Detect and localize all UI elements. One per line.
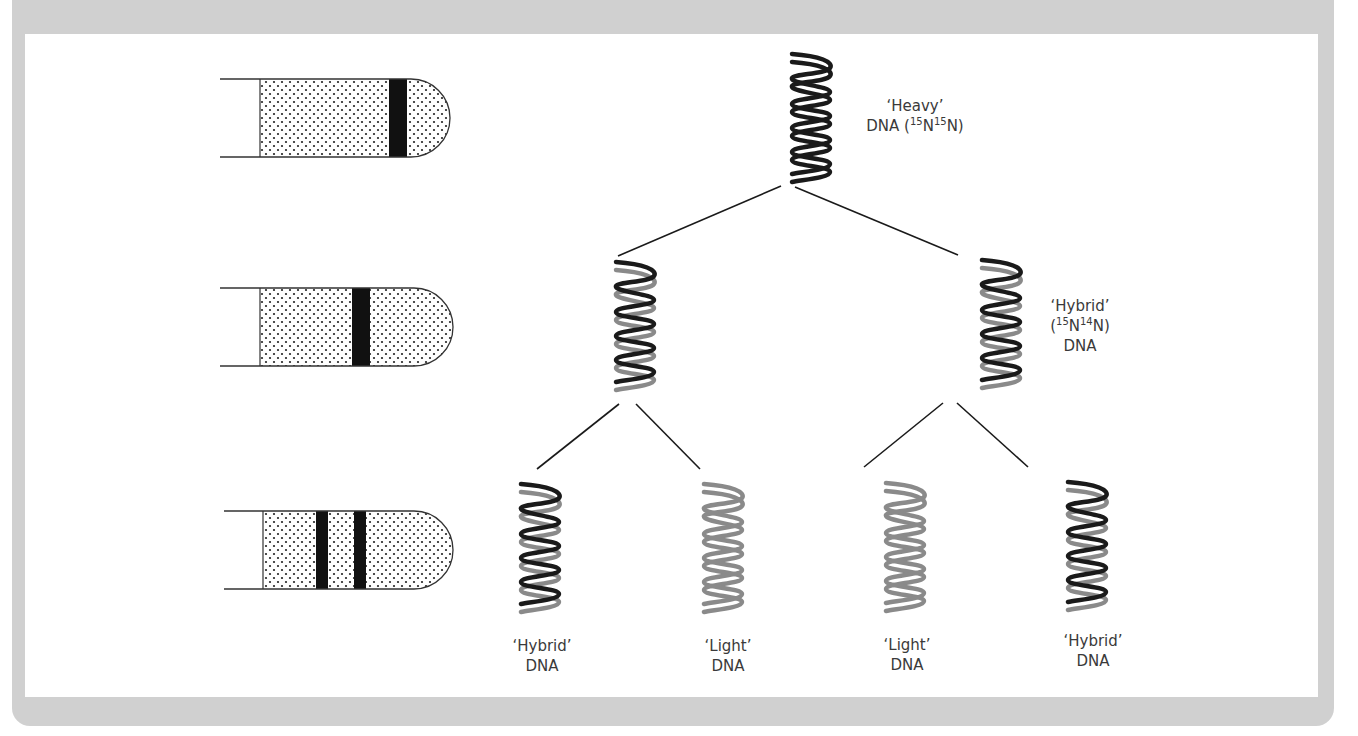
- dna-band-heavy: [389, 79, 407, 157]
- dna-helix-light-gen2-c: [886, 483, 925, 611]
- label-bottom-light-c: ‘Light’ DNA: [862, 635, 952, 675]
- dna-helix-hybrid-gen1-right: [982, 260, 1021, 388]
- lineage-lines: [537, 186, 1028, 469]
- dna-band-hybrid: [352, 288, 370, 366]
- label-line1: ‘Hybrid’: [1048, 631, 1138, 651]
- label-line1: ‘Light’: [683, 636, 773, 656]
- label-hybrid-line1: ‘Hybrid’: [1040, 296, 1120, 316]
- centrifuge-tube-gen2: [224, 511, 453, 589]
- dna-band-light: [316, 511, 328, 589]
- label-line1: ‘Hybrid’: [497, 636, 587, 656]
- centrifuge-tube-gen0: [220, 79, 450, 157]
- label-hybrid-line3: DNA: [1040, 336, 1120, 356]
- dna-helix-hybrid-gen2-a: [521, 484, 560, 612]
- label-line2: DNA: [497, 656, 587, 676]
- label-bottom-light-b: ‘Light’ DNA: [683, 636, 773, 676]
- label-hybrid-dna-gen1: ‘Hybrid’ (15N14N) DNA: [1040, 296, 1120, 356]
- label-bottom-hybrid-a: ‘Hybrid’ DNA: [497, 636, 587, 676]
- dna-helix-heavy: [792, 54, 831, 182]
- dna-helix-light-gen2-b: [704, 484, 743, 612]
- dna-helix-hybrid-gen2-d: [1068, 482, 1107, 610]
- label-heavy-dna: ‘Heavy’ DNA (15N15N): [860, 96, 970, 136]
- label-heavy-line1: ‘Heavy’: [860, 96, 970, 116]
- label-line2: DNA: [683, 656, 773, 676]
- label-hybrid-line2: (15N14N): [1040, 316, 1120, 336]
- label-bottom-hybrid-d: ‘Hybrid’ DNA: [1048, 631, 1138, 671]
- dna-helix-hybrid-gen1-left: [616, 262, 655, 390]
- label-heavy-line2: DNA (15N15N): [860, 116, 970, 136]
- dna-band-hybrid: [354, 511, 366, 589]
- label-line1: ‘Light’: [862, 635, 952, 655]
- label-line2: DNA: [1048, 651, 1138, 671]
- replication-diagram: [0, 0, 1358, 736]
- centrifuge-tube-gen1: [220, 288, 453, 366]
- label-line2: DNA: [862, 655, 952, 675]
